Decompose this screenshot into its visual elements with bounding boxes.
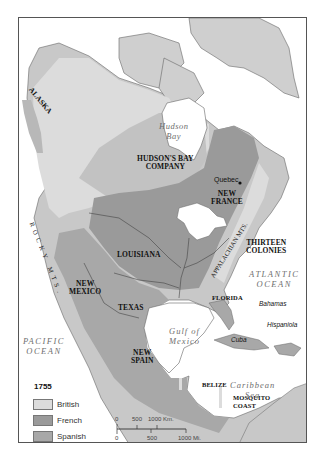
label-thirteen-colonies: THIRTEEN COLONIES [246,239,286,255]
label-gulf-of-mexico: Gulf of Mexico [169,326,200,346]
scale-km-500: 500 [132,416,142,422]
label-bahamas: Bahamas [259,300,286,307]
scale-bar: 0 500 1000 Km. 0 500 1000 Mi. [116,416,216,443]
label-belize: BELIZE [202,381,227,389]
map-frame: ALASKA HUDSON'S BAY COMPANY NEW FRANCE L… [18,17,307,443]
label-thirteen-colonies-line2: COLONIES [246,247,286,255]
legend-label-french: French [57,416,82,425]
label-hudson-bay-line1: Hudson [159,121,188,131]
label-texas: TEXAS [118,304,144,312]
label-atlantic-line2: OCEAN [249,279,299,289]
legend-swatch-british [33,399,53,410]
legend-label-british: British [57,400,79,409]
label-pacific-line1: PACIFIC [23,336,65,346]
label-new-mexico: NEW MEXICO [69,280,101,296]
label-hudsons-bay-company-line2: COMPANY [137,163,194,171]
land-greenland [189,18,299,98]
scale-mi-0: 0 [115,435,118,441]
label-cuba: Cuba [231,336,247,343]
island-hispaniola [274,343,301,356]
label-hudson-bay-line2: Bay [159,131,188,141]
label-gulf-line1: Gulf of [169,326,200,336]
label-quebec: Quebec [214,176,239,183]
label-louisiana: LOUISIANA [117,251,160,259]
label-pacific-line2: OCEAN [23,346,65,356]
scale-km-1000: 1000 Km. [148,416,174,422]
label-caribbean-sea: Caribbean Sea [230,380,275,400]
label-new-spain-line2: SPAIN [131,357,153,365]
legend-swatch-spanish [33,431,53,442]
label-gulf-line2: Mexico [169,336,200,346]
label-caribbean-line2: Sea [230,390,275,400]
legend-item-spanish: Spanish [33,428,86,443]
label-atlantic-ocean: ATLANTIC OCEAN [249,269,299,289]
label-florida: FLORIDA [212,294,243,302]
scale-mi-500: 500 [147,435,157,441]
label-hudsons-bay-company: HUDSON'S BAY COMPANY [137,155,194,171]
legend-label-spanish: Spanish [57,432,86,441]
legend-title: 1755 [34,382,86,391]
legend-item-british: British [33,396,86,412]
label-hudson-bay: Hudson Bay [159,121,188,141]
scale-mi-1000: 1000 Mi. [178,435,201,441]
label-atlantic-line1: ATLANTIC [249,269,299,279]
label-mosquito-coast-line2: COAST [233,402,270,410]
territory-mosquito-coast [219,386,222,408]
scale-km-0: 0 [115,416,118,422]
map-legend: 1755 British French Spanish Russian [33,382,86,443]
legend-item-french: French [33,412,86,428]
legend-swatch-french [33,415,53,426]
label-new-france: NEW FRANCE [211,190,243,206]
label-new-france-line2: FRANCE [211,198,243,206]
label-caribbean-line1: Caribbean [230,380,275,390]
label-pacific-ocean: PACIFIC OCEAN [23,336,65,356]
scale-bar-line [116,424,196,434]
label-new-mexico-line2: MEXICO [69,288,101,296]
territory-belize [179,378,182,390]
label-new-spain: NEW SPAIN [131,349,153,365]
label-hispaniola: Hispaniola [267,321,297,328]
